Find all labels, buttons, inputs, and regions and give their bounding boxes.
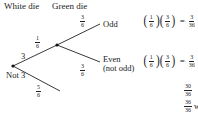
header-white-die: White die <box>4 1 39 11</box>
outcome-3: 3 <box>21 51 25 61</box>
outcome-even: Even (not odd) <box>103 55 134 73</box>
fraction-36-36: 3636 w <box>184 99 198 113</box>
prob-3: 16 <box>35 32 40 50</box>
fraction-30-36: 3036 <box>184 80 192 98</box>
outcome-odd: Odd <box>103 19 118 29</box>
branch-node <box>55 43 58 46</box>
result-even: (16)(36) = 336 <box>143 54 195 68</box>
prob-not-3: 56 <box>36 81 41 99</box>
outcome-not-3: Not 3 <box>6 70 25 80</box>
header-green-die: Green die <box>52 1 87 11</box>
root-node <box>11 64 14 67</box>
result-odd: (16)(36) = 336 <box>143 14 195 28</box>
prob-odd: 36 <box>80 11 85 29</box>
prob-even: 36 <box>80 60 85 78</box>
